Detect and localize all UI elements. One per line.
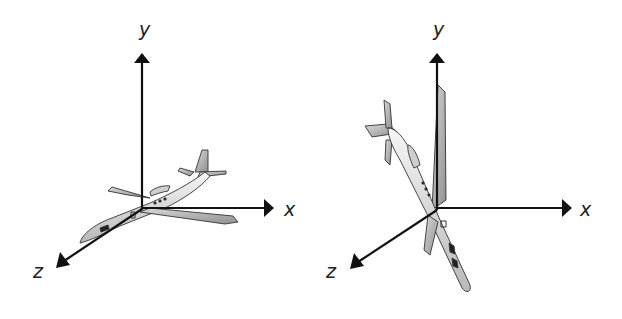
x-axis-label: x: [579, 198, 592, 220]
x-axis-arrow-icon: [264, 199, 274, 217]
z-axis-label: z: [32, 260, 44, 282]
airplane-right: [365, 85, 470, 292]
diagram-canvas: y x z: [0, 0, 622, 319]
z-axis-arrow-icon: [350, 253, 364, 269]
z-axis-label: z: [325, 260, 337, 282]
y-axis-label: y: [432, 18, 445, 40]
airplane-left: [80, 150, 238, 243]
left-diagram: y x z: [32, 18, 296, 282]
axes-right: [350, 53, 572, 269]
x-axis-label: x: [283, 198, 296, 220]
x-axis-arrow-icon: [562, 199, 572, 217]
y-axis-arrow-icon: [134, 53, 150, 63]
y-axis-label: y: [138, 18, 151, 40]
z-axis: [64, 209, 142, 261]
z-axis-arrow-icon: [56, 252, 70, 268]
y-axis-arrow-icon: [429, 53, 445, 63]
right-diagram: y x z: [325, 18, 592, 292]
